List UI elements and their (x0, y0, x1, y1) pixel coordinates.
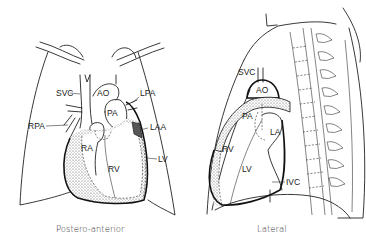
clavicles (36, 42, 164, 66)
label-laa: LAA (150, 122, 166, 132)
label-ra: RA (81, 143, 93, 153)
heart-diagram: SVC AO LPA PA RPA LAA RA LV RV Postero-a… (0, 0, 366, 243)
label-lpa: LPA (140, 88, 156, 98)
heart-lateral (209, 68, 290, 206)
label-rv-lateral: RV (222, 144, 234, 154)
label-ivc-lateral: IVC (286, 177, 300, 187)
label-svc-lateral: SVC (238, 67, 255, 77)
caption-lateral: Lateral (257, 224, 287, 234)
label-lv: LV (158, 154, 168, 164)
label-la-lateral: LA (270, 127, 281, 137)
label-ao-lateral: AO (256, 85, 269, 95)
label-pa-lateral: PA (242, 111, 253, 121)
caption-postero-anterior: Postero-anterior (56, 224, 125, 234)
label-rpa: RPA (28, 121, 45, 131)
label-ao: AO (97, 88, 110, 98)
label-rv: RV (108, 164, 120, 174)
lateral-labels: SVC AO PA LA RV LV IVC (222, 67, 300, 187)
label-pa: PA (107, 108, 118, 118)
lateral-panel: SVC AO PA LA RV LV IVC Lateral (207, 8, 365, 234)
label-lv-lateral: LV (242, 164, 252, 174)
postero-anterior-panel: SVC AO LPA PA RPA LAA RA LV RV Postero-a… (20, 42, 175, 234)
